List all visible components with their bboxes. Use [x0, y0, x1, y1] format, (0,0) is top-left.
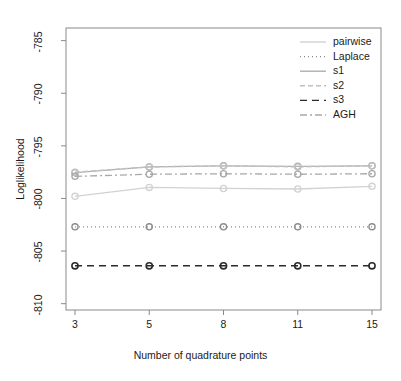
y-tick-label: -795	[31, 136, 45, 157]
series-s3	[72, 263, 375, 269]
x-tick-label: 3	[72, 318, 78, 330]
x-axis-title: Number of quadrature points	[0, 349, 401, 361]
series-laplace	[72, 224, 375, 230]
y-tick-label-wrap: -790	[18, 86, 58, 100]
x-tick-label: 11	[292, 318, 303, 330]
y-axis-title: Loglikelihood	[14, 89, 26, 249]
series-pairwise	[72, 183, 375, 199]
series-s2	[72, 163, 375, 176]
series-layer	[72, 163, 375, 269]
y-tick-label-wrap: -785	[18, 34, 58, 48]
y-tick-label: -785	[31, 31, 45, 52]
x-tick-label: 8	[221, 318, 227, 330]
x-tick-label: 5	[146, 318, 152, 330]
legend-label-pairwise: pairwise	[333, 35, 372, 47]
series-line	[75, 174, 372, 177]
legend-label-s3: s3	[333, 93, 344, 105]
series-agh	[72, 171, 375, 180]
x-tick-label: 15	[366, 318, 378, 330]
y-tick-label-wrap: -795	[18, 139, 58, 153]
data-point-marker	[369, 171, 375, 177]
y-tick-label-wrap: -805	[18, 244, 58, 258]
legend-label-s2: s2	[333, 79, 344, 91]
y-tick-label: -805	[31, 242, 45, 263]
legend-label-s1: s1	[333, 64, 344, 76]
y-tick-label: -800	[31, 189, 45, 210]
y-tick-label-wrap: -800	[18, 191, 58, 205]
y-tick-label-wrap: -810	[18, 297, 58, 311]
chart-figure: Number of quadrature points Loglikelihoo…	[0, 0, 401, 381]
y-tick-label: -790	[31, 84, 45, 105]
legend-label-agh: AGH	[333, 108, 356, 120]
legend-label-laplace: Laplace	[333, 50, 370, 62]
y-tick-label: -810	[31, 294, 45, 315]
axis-ticks	[61, 41, 372, 315]
